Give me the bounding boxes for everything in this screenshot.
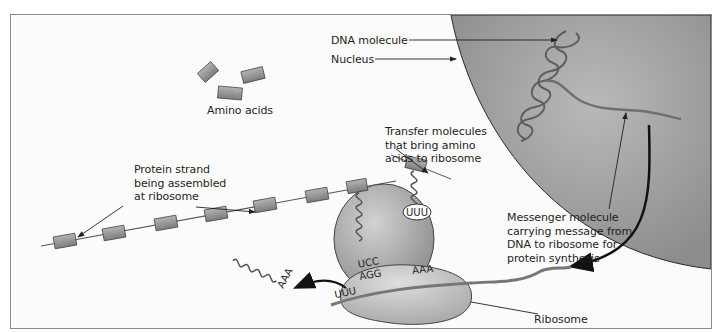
codon-next-text: AAA — [412, 263, 434, 276]
ribosome-pointer — [471, 302, 538, 314]
released-trna-text: AAA — [275, 266, 295, 290]
label-transfer-molecules: Transfer molecules that bring amino acid… — [385, 125, 487, 166]
label-protein-strand: Protein strand being assembled at riboso… — [134, 163, 226, 204]
label-amino-acids: Amino acids — [207, 104, 273, 118]
label-dna-molecule: DNA molecule — [331, 34, 408, 48]
label-ribosome: Ribosome — [534, 313, 588, 327]
diagram-frame: UUU UCC AGG AAA UUU AAA DNA molecule Nuc… — [10, 14, 712, 329]
trna-bubble-text: UUU — [406, 207, 428, 218]
label-messenger-molecule: Messenger molecule carrying message from… — [507, 211, 632, 265]
ribosome — [334, 184, 472, 324]
amino-acids — [197, 62, 265, 101]
label-nucleus: Nucleus — [331, 53, 374, 67]
release-arrow — [297, 281, 346, 288]
released-trna-helix — [232, 258, 277, 282]
